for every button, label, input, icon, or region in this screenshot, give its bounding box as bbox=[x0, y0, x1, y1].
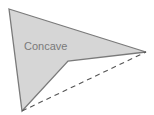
concave-polygon-diagram: Concave bbox=[0, 0, 154, 115]
concave-polygon bbox=[9, 9, 146, 111]
shape-label: Concave bbox=[24, 40, 67, 52]
